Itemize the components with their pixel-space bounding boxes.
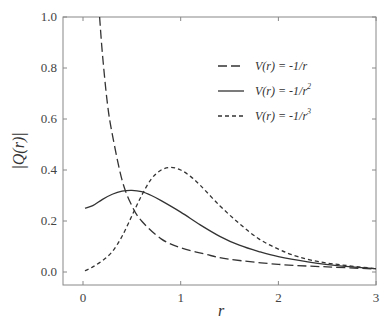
x-tick-label: 3 (373, 290, 380, 305)
y-tick-label: 0.6 (41, 111, 58, 126)
legend-label: V(r) = -1/r (255, 59, 307, 73)
series-line (100, 17, 376, 269)
y-tick-label: 0.2 (41, 213, 57, 228)
x-tick-label: 1 (177, 290, 184, 305)
x-tick-label: 0 (80, 290, 87, 305)
series-lines (85, 17, 376, 271)
series-line (85, 167, 376, 270)
axis-ticks: 0.00.20.40.60.81.00123 (41, 9, 380, 305)
x-tick-label: 2 (275, 290, 282, 305)
plot-frame (63, 17, 376, 285)
y-tick-label: 0.8 (41, 60, 57, 75)
legend-label: V(r) = -1/r3 (255, 107, 311, 123)
chart: 0.00.20.40.60.81.00123 V(r) = -1/rV(r) =… (0, 0, 387, 331)
y-tick-label: 0.4 (41, 162, 58, 177)
x-axis-title: r (218, 302, 225, 319)
legend: V(r) = -1/rV(r) = -1/r2V(r) = -1/r3 (218, 59, 311, 123)
legend-label: V(r) = -1/r2 (255, 82, 311, 98)
series-line (85, 190, 376, 268)
y-tick-label: 1.0 (41, 9, 57, 24)
y-axis-title: |Q(r)| (10, 132, 28, 169)
y-tick-label: 0.0 (41, 264, 57, 279)
